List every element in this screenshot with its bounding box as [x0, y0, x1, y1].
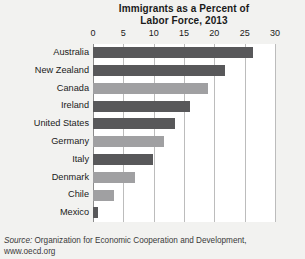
bar-germany [93, 136, 164, 147]
bar-united-states [93, 118, 175, 129]
bar-australia [93, 47, 253, 58]
bar-series [93, 44, 275, 222]
bar-mexico [93, 207, 98, 218]
bar-row [93, 204, 275, 221]
category-label-italy: Italy [72, 151, 89, 168]
bar-row [93, 97, 275, 114]
x-tick-label-15: 15 [179, 28, 189, 38]
source-url: www.oecd.org [4, 247, 301, 258]
category-label-australia: Australia [53, 44, 89, 61]
bar-row [93, 169, 275, 186]
category-label-united-states: United States [34, 115, 89, 132]
bar-canada [93, 83, 208, 94]
bar-denmark [93, 172, 135, 183]
category-label-mexico: Mexico [60, 204, 89, 221]
bar-row [93, 44, 275, 61]
plot-area [93, 44, 275, 222]
chart-title-line-1: Immigrants as a Percent of [119, 3, 249, 14]
bar-italy [93, 154, 153, 165]
source-note: Source: Organization for Economic Cooper… [4, 236, 301, 257]
gridline-30 [275, 44, 276, 222]
category-label-new-zealand: New Zealand [35, 62, 89, 79]
category-label-chile: Chile [68, 186, 89, 203]
bar-row [93, 133, 275, 150]
bar-row [93, 115, 275, 132]
x-tick-label-10: 10 [149, 28, 159, 38]
source-label: Source: [4, 236, 32, 245]
bar-new-zealand [93, 65, 225, 76]
x-tick-label-30: 30 [270, 28, 280, 38]
x-tick-label-20: 20 [209, 28, 219, 38]
category-label-canada: Canada [57, 80, 89, 97]
bar-row [93, 151, 275, 168]
bar-row [93, 62, 275, 79]
bar-row [93, 186, 275, 203]
bar-row [93, 80, 275, 97]
chart-title-line-2: Labor Force, 2013 [93, 15, 275, 27]
chart-title: Immigrants as a Percent of Labor Force, … [93, 3, 275, 26]
y-axis-category-labels: AustraliaNew ZealandCanadaIrelandUnited … [0, 44, 89, 222]
category-label-ireland: Ireland [61, 97, 89, 114]
chart-figure: Immigrants as a Percent of Labor Force, … [0, 0, 305, 259]
bar-chile [93, 190, 114, 201]
x-tick-label-5: 5 [121, 28, 126, 38]
x-axis-tick-labels: 051015202530 [93, 28, 275, 41]
x-tick-label-0: 0 [90, 28, 95, 38]
source-text: Organization for Economic Cooperation an… [32, 236, 246, 245]
category-label-denmark: Denmark [52, 169, 89, 186]
bar-ireland [93, 101, 190, 112]
category-label-germany: Germany [51, 133, 89, 150]
x-tick-label-25: 25 [240, 28, 250, 38]
